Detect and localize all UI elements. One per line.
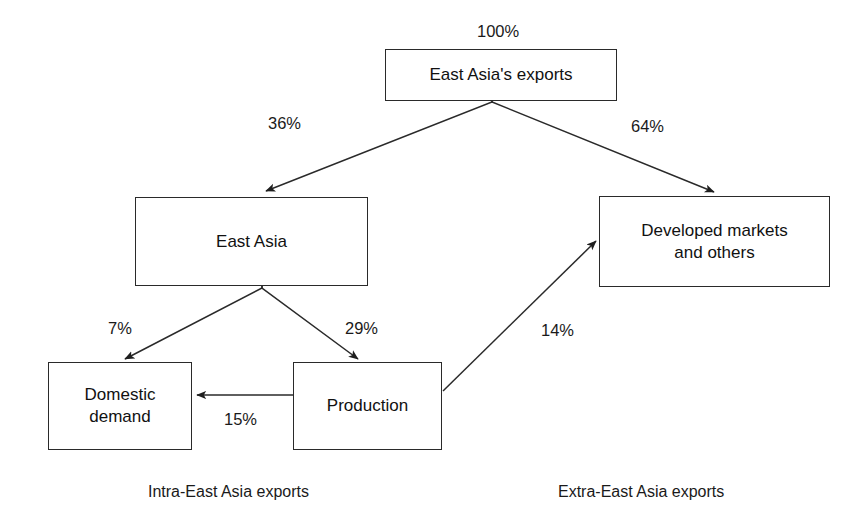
edge-east-asia-to-domestic [125,286,262,359]
edge-label-total-exports: 100% [477,22,519,41]
edge-label-production-to-domestic: 15% [224,410,257,429]
edge-exports-to-developed [492,101,714,192]
node-east-asia-exports[interactable]: East Asia's exports [385,49,617,101]
caption-intra-east-asia: Intra-East Asia exports [148,483,309,501]
edge-label-exports-to-east-asia: 36% [268,114,301,133]
node-label: Developed markets and others [641,220,787,264]
edge-label-exports-to-developed: 64% [631,117,664,136]
edge-production-to-developed [443,241,596,391]
node-domestic-demand[interactable]: Domestic demand [48,362,192,450]
edge-label-east-asia-to-production: 29% [345,319,378,338]
diagram-canvas: East Asia's exports East Asia Developed … [0,0,868,530]
caption-extra-east-asia: Extra-East Asia exports [558,483,724,501]
node-production[interactable]: Production [293,362,442,450]
node-label: Domestic demand [85,384,156,428]
edge-label-east-asia-to-domestic: 7% [108,319,132,338]
node-label: Production [327,395,408,417]
edge-east-asia-to-production [262,286,358,359]
node-east-asia[interactable]: East Asia [135,197,368,286]
node-label: East Asia [216,231,287,253]
node-label: East Asia's exports [429,64,572,86]
edge-label-production-to-developed: 14% [541,321,574,340]
node-developed-markets[interactable]: Developed markets and others [599,196,830,287]
